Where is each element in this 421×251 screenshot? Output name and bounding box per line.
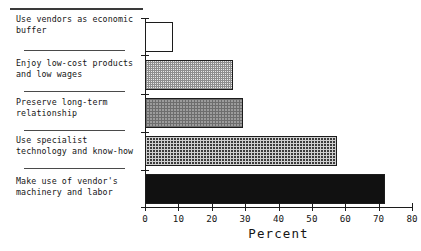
x-axis-ticklabel-80: 80 — [406, 214, 417, 224]
category-label-1: Enjoy low-cost products and low wages — [16, 58, 143, 81]
x-axis-ticklabel-30: 30 — [240, 214, 251, 224]
bar-0 — [145, 22, 173, 52]
y-axis-tick-4 — [141, 170, 149, 171]
x-axis-tick-30 — [245, 203, 246, 211]
category-label-3: Use specialist technology and know-how — [16, 135, 143, 158]
category-row-4: Make use of vendor's machinery and labor — [0, 170, 145, 207]
x-axis-tick-20 — [212, 203, 213, 211]
category-label-column: Use vendors as economic buffer Enjoy low… — [0, 14, 145, 207]
x-axis-ticklabel-0: 0 — [142, 214, 148, 224]
bar-3 — [145, 136, 337, 166]
y-axis-tick-0 — [141, 18, 149, 19]
bar-4 — [145, 174, 385, 204]
category-label-4: Make use of vendor's machinery and labor — [16, 176, 143, 199]
x-axis-tick-40 — [279, 203, 280, 211]
category-row-3: Use specialist technology and know-how — [0, 132, 145, 169]
category-row-1: Enjoy low-cost products and low wages — [0, 54, 145, 92]
x-axis-ticklabel-10: 10 — [173, 214, 184, 224]
x-axis-ticklabel-50: 50 — [306, 214, 317, 224]
x-axis-ticklabel-40: 40 — [273, 214, 284, 224]
plot-area: 0 10 20 30 40 50 60 70 80 — [145, 20, 412, 207]
bar-2 — [145, 98, 243, 128]
category-row-2: Preserve long-term relationship — [0, 93, 145, 131]
x-axis-tick-0 — [145, 203, 146, 211]
x-axis-tick-10 — [178, 203, 179, 211]
x-axis-ticklabel-20: 20 — [206, 214, 217, 224]
category-separator-3 — [24, 168, 125, 169]
bar-1 — [145, 60, 233, 90]
x-axis-tick-50 — [312, 203, 313, 211]
y-axis-tick-2 — [141, 94, 149, 95]
x-axis-tick-60 — [345, 203, 346, 211]
category-row-0: Use vendors as economic buffer — [0, 14, 145, 53]
category-separator-2 — [24, 130, 125, 131]
category-label-0: Use vendors as economic buffer — [16, 14, 143, 37]
bar-chart-figure: Use vendors as economic buffer Enjoy low… — [0, 0, 421, 251]
category-separator-0 — [24, 50, 125, 51]
y-axis-tick-1 — [141, 55, 149, 56]
x-axis-tick-70 — [379, 203, 380, 211]
y-axis-tick-3 — [141, 132, 149, 133]
label-column-top-rule — [10, 8, 143, 10]
category-label-2: Preserve long-term relationship — [16, 97, 143, 120]
x-axis-title: Percent — [145, 226, 412, 241]
category-separator-1 — [24, 91, 125, 92]
x-axis-ticklabel-60: 60 — [340, 214, 351, 224]
x-axis-tick-80 — [412, 203, 413, 211]
x-axis-ticklabel-70: 70 — [373, 214, 384, 224]
